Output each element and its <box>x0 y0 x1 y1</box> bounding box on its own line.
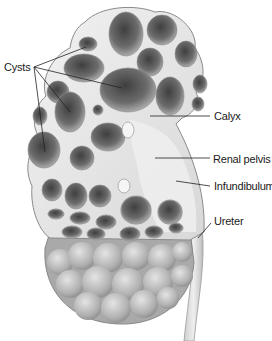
kidney-illustration <box>0 0 272 341</box>
label-infundibulum: Infundibulum <box>214 180 272 192</box>
polycystic-kidney-diagram: Cysts Calyx Renal pelvis Infundibulum Ur… <box>0 0 272 341</box>
label-renal-pelvis: Renal pelvis <box>213 153 271 165</box>
label-cysts: Cysts <box>4 61 31 73</box>
label-ureter: Ureter <box>214 215 243 227</box>
label-calyx: Calyx <box>214 110 241 122</box>
lower-cyst-cluster <box>45 232 194 324</box>
